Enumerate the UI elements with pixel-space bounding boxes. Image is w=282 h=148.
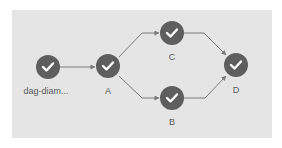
node-d[interactable]: [224, 53, 248, 77]
node-root[interactable]: [36, 55, 60, 79]
node-label-c: C: [142, 52, 202, 62]
node-label-b: B: [142, 117, 202, 127]
node-b[interactable]: [160, 86, 184, 110]
node-label-a: A: [78, 86, 138, 96]
node-a[interactable]: [96, 54, 120, 78]
dag-canvas: dag-diam... A C B D: [0, 0, 282, 148]
node-c[interactable]: [160, 21, 184, 45]
node-label-root: dag-diam...: [16, 86, 76, 96]
node-label-d: D: [206, 85, 266, 95]
dag-graph: [0, 0, 282, 148]
